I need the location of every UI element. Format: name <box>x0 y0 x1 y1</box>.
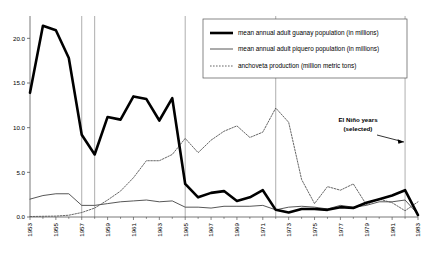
legend-label-guanay: mean annual adult guanay population (in … <box>238 29 379 37</box>
y-tick-label: 10.0 <box>13 124 26 131</box>
el-nino-annotation-line1: El Niño years <box>338 116 378 123</box>
x-tick-label: 1971 <box>259 222 266 236</box>
x-tick-label: 1975 <box>311 222 318 236</box>
x-tick-label: 1953 <box>26 222 33 236</box>
y-tick-label: 15.0 <box>13 79 26 86</box>
x-tick-label: 1983 <box>414 222 421 236</box>
anchoveta-guanay-piquero-chart: 0.05.010.015.020.0 195319551957195919611… <box>0 0 429 263</box>
y-tick-label: 5.0 <box>16 169 25 176</box>
x-tick-label: 1959 <box>104 222 111 236</box>
x-tick-label: 1955 <box>52 222 59 236</box>
x-tick-label: 1977 <box>337 222 344 236</box>
y-tick-label: 0.0 <box>16 213 25 220</box>
x-tick-label: 1961 <box>130 222 137 236</box>
el-nino-annotation-line2: (selected) <box>344 125 373 132</box>
x-tick-label: 1981 <box>389 222 396 236</box>
x-tick-label: 1967 <box>207 222 214 236</box>
x-tick-label: 1973 <box>285 222 292 236</box>
legend-box: mean annual adult guanay population (in … <box>203 19 407 78</box>
legend-label-piquero: mean annual adult piquero population (in… <box>238 45 379 53</box>
y-tick-label: 20.0 <box>13 35 26 42</box>
x-tick-label: 1969 <box>233 222 240 236</box>
x-tick-label: 1963 <box>156 222 163 236</box>
chart-canvas: 0.05.010.015.020.0 195319551957195919611… <box>0 0 429 263</box>
x-tick-label: 1965 <box>182 222 189 236</box>
legend-label-anchoveta: anchoveta production (million metric ton… <box>238 62 356 70</box>
x-tick-label: 1979 <box>363 222 370 236</box>
x-tick-label: 1957 <box>78 222 85 236</box>
